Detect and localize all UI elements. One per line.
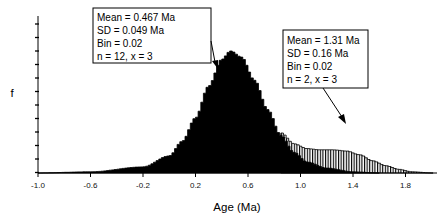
arrow-2-head-icon (338, 114, 346, 124)
x-tick-label: -0.6 (84, 181, 98, 190)
x-tick-label: 0.2 (190, 181, 202, 190)
ann1-bin: Bin = 0.02 (97, 38, 143, 49)
y-axis-label: f (10, 87, 14, 99)
ann2-mean: Mean = 1.31 Ma (287, 35, 360, 46)
x-axis-label: Age (Ma) (213, 201, 260, 213)
annotation-peak-2: Mean = 1.31 Ma SD = 0.16 Ma Bin = 0.02 n… (283, 30, 368, 124)
annotation-peak-1: Mean = 0.467 Ma SD = 0.049 Ma Bin = 0.02… (93, 8, 218, 69)
x-tick-label: 1.8 (400, 181, 412, 190)
x-tick-label: 0.6 (242, 181, 254, 190)
arrow-1-head-icon (212, 60, 218, 69)
x-tick-label: -1.0 (31, 181, 45, 190)
arrow-1-shaft (211, 41, 215, 62)
x-tick-label: 1.0 (295, 181, 307, 190)
ann1-n: n = 12, x = 3 (97, 51, 153, 62)
ann1-sd: SD = 0.049 Ma (97, 25, 164, 36)
x-tick-label: -0.2 (136, 181, 150, 190)
ann2-n: n = 2, x = 3 (287, 74, 337, 85)
x-tick-label: 1.4 (347, 181, 359, 190)
x-axis-ticks: -1.0-0.6-0.20.20.61.01.41.8 (31, 173, 412, 190)
ann2-sd: SD = 0.16 Ma (287, 48, 349, 59)
arrow-2-shaft (323, 88, 342, 117)
ann2-bin: Bin = 0.02 (287, 61, 333, 72)
age-probability-chart: -1.0-0.6-0.20.20.61.01.41.8 f Age (Ma) M… (0, 0, 448, 221)
ann1-mean: Mean = 0.467 Ma (97, 12, 176, 23)
